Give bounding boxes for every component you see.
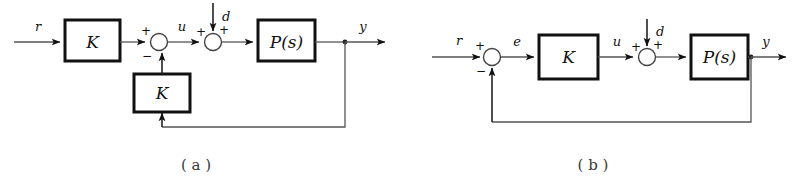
block-plant-b-label: P(s)	[702, 47, 736, 67]
signal-label-e-b: e	[513, 34, 521, 49]
block-gain-forward-a-label: K	[85, 32, 100, 52]
sum-junction-1-a-sign-top: +	[141, 24, 151, 38]
signal-label-y-a: y	[358, 19, 367, 34]
sum-junction-1-b	[484, 49, 501, 66]
signal-label-u-b: u	[613, 34, 621, 49]
signal-label-r-a: r	[35, 19, 42, 34]
sum-junction-2-b-sign-left: +	[631, 40, 641, 54]
signal-label-u-a: u	[178, 19, 186, 34]
caption-a: ( a )	[181, 156, 211, 174]
diagram-a-group: K + − u d + + P(s)	[14, 3, 385, 174]
signal-label-d-b: d	[656, 24, 664, 39]
block-plant-a-label: P(s)	[269, 32, 303, 52]
signal-label-r-b: r	[456, 33, 463, 48]
sum-junction-1-a-sign-bottom: −	[142, 49, 152, 63]
sum-junction-2-a-sign-left: +	[196, 25, 206, 39]
block-gain-feedback-a-label: K	[155, 83, 170, 103]
sum-junction-1-a	[151, 34, 168, 51]
sum-junction-1-b-sign-top: +	[475, 39, 485, 53]
sum-junction-2-b-sign-right: +	[653, 38, 663, 52]
caption-b: ( b )	[578, 156, 609, 174]
signal-label-y-b: y	[761, 34, 770, 49]
sum-junction-1-b-sign-bottom: −	[476, 64, 486, 78]
signal-label-d-a: d	[222, 9, 230, 24]
block-diagram-svg: K + − u d + + P(s)	[0, 0, 794, 181]
sum-junction-2-a-sign-right: +	[219, 23, 229, 37]
figure-canvas: K + − u d + + P(s)	[0, 0, 794, 181]
diagram-b-group: r + − e K u d + +	[432, 19, 786, 174]
block-gain-forward-b-label: K	[561, 47, 576, 67]
